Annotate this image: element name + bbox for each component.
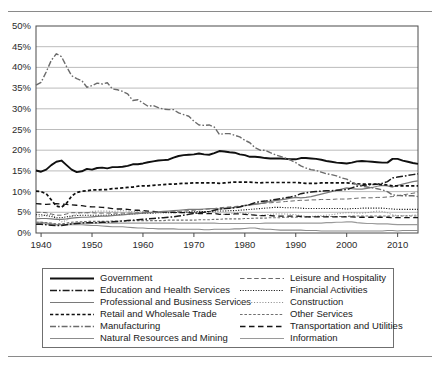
y-axis-tick: 0% bbox=[1, 228, 31, 238]
series-line-information bbox=[36, 222, 418, 225]
x-axis-tick: 2000 bbox=[327, 240, 367, 250]
legend-swatch-line-icon bbox=[239, 322, 285, 331]
legend-item: Transportation and Utilities bbox=[233, 321, 395, 331]
x-axis-tick: 1990 bbox=[276, 240, 316, 250]
legend-item: Government bbox=[43, 273, 233, 283]
legend-label: Other Services bbox=[290, 309, 353, 319]
legend-item: Professional and Business Services bbox=[43, 297, 233, 307]
x-axis-tick: 1960 bbox=[123, 240, 163, 250]
series-line-government bbox=[36, 151, 418, 172]
legend-item: Natural Resources and Mining bbox=[43, 333, 233, 343]
legend-swatch-line-icon bbox=[239, 298, 285, 307]
legend-label: Government bbox=[100, 273, 152, 283]
legend-label: Financial Activities bbox=[290, 285, 368, 295]
legend-swatch-line-icon bbox=[49, 334, 95, 343]
y-axis-tick: 15% bbox=[1, 166, 31, 176]
plot-area: 0%5%10%15%20%25%30%35%40%45%50% 19401950… bbox=[0, 18, 440, 258]
legend-swatch-line-icon bbox=[239, 334, 285, 343]
y-axis-tick: 20% bbox=[1, 145, 31, 155]
legend-grid: GovernmentLeisure and HospitalityEducati… bbox=[43, 269, 393, 347]
x-axis-tick: 1950 bbox=[72, 240, 112, 250]
legend-label: Construction bbox=[290, 297, 343, 307]
y-axis-tick: 45% bbox=[1, 42, 31, 52]
x-axis-tick: 1970 bbox=[174, 240, 214, 250]
y-axis-tick: 40% bbox=[1, 62, 31, 72]
legend-label: Leisure and Hospitality bbox=[290, 273, 386, 283]
top-divider-rule bbox=[8, 11, 432, 12]
legend-label: Natural Resources and Mining bbox=[100, 333, 228, 343]
series-line-manufacturing bbox=[36, 54, 418, 197]
legend-swatch-line-icon bbox=[49, 310, 95, 319]
legend-item: Education and Health Services bbox=[43, 285, 233, 295]
legend-label: Education and Health Services bbox=[100, 285, 230, 295]
legend-swatch-line-icon bbox=[49, 322, 95, 331]
y-axis-tick: 30% bbox=[1, 104, 31, 114]
y-axis-tick: 25% bbox=[1, 125, 31, 135]
legend-swatch-line-icon bbox=[49, 274, 95, 283]
legend-label: Transportation and Utilities bbox=[290, 321, 403, 331]
legend-item: Other Services bbox=[233, 309, 395, 319]
legend-item: Manufacturing bbox=[43, 321, 233, 331]
legend-swatch-line-icon bbox=[239, 286, 285, 295]
legend-item: Financial Activities bbox=[233, 285, 395, 295]
line-chart-svg bbox=[0, 18, 440, 258]
figure-container: 0%5%10%15%20%25%30%35%40%45%50% 19401950… bbox=[0, 0, 440, 369]
x-axis-tick: 2010 bbox=[378, 240, 418, 250]
legend-swatch-line-icon bbox=[49, 286, 95, 295]
legend-item: Information bbox=[233, 333, 395, 343]
legend-swatch-line-icon bbox=[239, 310, 285, 319]
legend: GovernmentLeisure and HospitalityEducati… bbox=[42, 268, 394, 348]
series-line-leisure-and-hospitality bbox=[36, 192, 418, 215]
legend-item: Construction bbox=[233, 297, 395, 307]
legend-label: Retail and Wholesale Trade bbox=[100, 309, 217, 319]
legend-swatch-line-icon bbox=[239, 274, 285, 283]
x-axis-tick: 1980 bbox=[225, 240, 265, 250]
series-line-professional-and-business-services bbox=[36, 181, 418, 220]
y-axis-tick: 5% bbox=[1, 207, 31, 217]
legend-swatch-line-icon bbox=[49, 298, 95, 307]
y-axis-tick: 50% bbox=[1, 21, 31, 31]
legend-label: Information bbox=[290, 333, 338, 343]
legend-item: Retail and Wholesale Trade bbox=[43, 309, 233, 319]
y-axis-tick: 35% bbox=[1, 83, 31, 93]
legend-label: Professional and Business Services bbox=[100, 297, 251, 307]
y-axis-tick: 10% bbox=[1, 187, 31, 197]
bottom-divider-rule bbox=[8, 356, 432, 357]
legend-label: Manufacturing bbox=[100, 321, 160, 331]
x-axis-tick: 1940 bbox=[21, 240, 61, 250]
legend-item: Leisure and Hospitality bbox=[233, 273, 395, 283]
